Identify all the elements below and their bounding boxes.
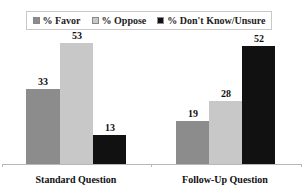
bar-standard-dont-know	[93, 135, 126, 164]
x-axis-tick	[2, 164, 3, 167]
category-label-followup: Follow-Up Question	[155, 174, 295, 185]
value-label-followup-oppose: 28	[209, 88, 243, 99]
value-label-followup-dont-know: 52	[242, 33, 276, 44]
bar-followup-favor	[176, 121, 209, 164]
bar-followup-oppose	[209, 101, 242, 164]
bar-followup-dont-know	[242, 46, 275, 164]
x-axis-tick	[301, 164, 302, 167]
value-label-followup-favor: 19	[176, 108, 210, 119]
value-label-standard-favor: 33	[26, 76, 60, 87]
plot-area: 33 53 13 19 28 52 Standard Question Foll…	[0, 0, 304, 190]
value-label-standard-dont-know: 13	[93, 122, 127, 133]
bar-standard-oppose	[60, 43, 93, 164]
x-axis	[2, 164, 302, 165]
bar-standard-favor	[26, 89, 60, 164]
value-label-standard-oppose: 53	[60, 30, 94, 41]
category-label-standard: Standard Question	[6, 174, 146, 185]
x-axis-tick	[151, 164, 152, 167]
